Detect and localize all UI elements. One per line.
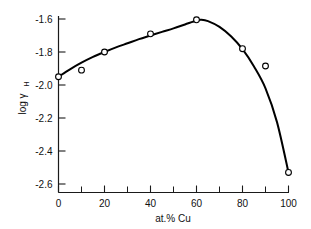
x-tick-label: 40 (145, 198, 157, 209)
chart-figure: -1.6-1.8-2.0-2.2-2.4-2.6 020406080100 at… (0, 0, 311, 229)
x-axis-tick-labels: 020406080100 (56, 198, 298, 209)
plot-area: -1.6-1.8-2.0-2.2-2.4-2.6 020406080100 at… (0, 0, 311, 229)
data-point (194, 17, 200, 23)
x-tick-label: 20 (99, 198, 111, 209)
data-point (286, 170, 292, 176)
data-point (148, 31, 154, 37)
x-tick-label: 80 (237, 198, 249, 209)
y-axis-title-subscript: H (23, 81, 30, 86)
x-tick-label: 0 (56, 198, 62, 209)
x-axis-title: at.% Cu (155, 213, 191, 224)
x-tick-label: 60 (191, 198, 203, 209)
y-axis-tick-labels: -1.6-1.8-2.0-2.2-2.4-2.6 (35, 14, 53, 190)
y-tick-label: -2.6 (35, 179, 53, 190)
y-tick-label: -1.8 (35, 47, 53, 58)
x-axis-minor-ticks (82, 187, 266, 193)
x-tick-label: 100 (280, 198, 297, 209)
data-point (79, 67, 85, 73)
y-tick-label: -1.6 (35, 14, 53, 25)
y-axis-title: log γ (17, 93, 28, 114)
data-point (263, 63, 269, 69)
data-point (240, 46, 246, 52)
y-tick-label: -2.0 (35, 80, 53, 91)
fitted-curve (59, 20, 289, 173)
data-point-markers (56, 17, 292, 175)
y-tick-label: -2.2 (35, 113, 53, 124)
y-axis-title-group: log γ H (17, 81, 30, 114)
y-tick-label: -2.4 (35, 146, 53, 157)
y-axis-major-ticks (59, 19, 66, 184)
data-point (56, 74, 62, 80)
data-point (102, 49, 108, 55)
x-axis-title-group: at.% Cu (155, 213, 191, 224)
